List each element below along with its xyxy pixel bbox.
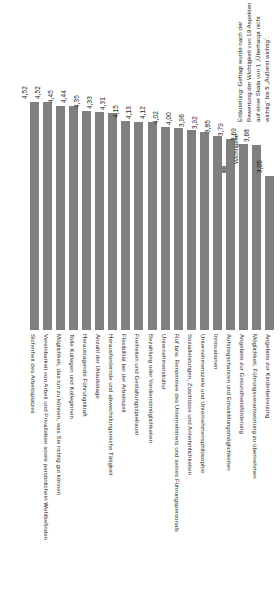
category-tick: Vereinbarkeit von Arbeit und Privatleben… — [43, 332, 52, 594]
category-tick: Herausfordernde und abwechslungsreiche T… — [108, 332, 117, 594]
bar[interactable] — [265, 176, 274, 330]
bar[interactable] — [43, 102, 52, 330]
category-label: Aufstiegschancen und Entwicklungsmöglich… — [225, 334, 233, 471]
bar-value-label: 4,52 — [33, 86, 42, 99]
bar[interactable] — [82, 111, 91, 330]
category-label: Bezahlung oder Verdienstmöglichkeiten — [147, 334, 155, 443]
bar-value-label: 4,52 — [20, 86, 29, 99]
bar[interactable] — [174, 128, 183, 330]
category-label: Ruf bzw. Renommee des Unternehmens und s… — [173, 334, 181, 532]
legend-swatch-wichtigkeit — [222, 166, 229, 173]
category-tick: Unternehmenskultur — [161, 332, 170, 594]
bar-value-label: 3,85 — [203, 120, 212, 133]
bar[interactable] — [56, 106, 65, 330]
bar-value-label: 3,05 — [255, 160, 264, 173]
category-tick: Freiheiten und Gestaltungsspielraum — [134, 332, 143, 594]
category-tick: Innovationen — [213, 332, 222, 594]
bar-slot: 3,85 — [213, 78, 222, 330]
category-axis: Sicherheit des ArbeitsplatzesVereinbarke… — [28, 332, 276, 594]
bar-value-label: 4,33 — [85, 96, 94, 109]
bar-slot: 4,44 — [69, 78, 78, 330]
category-tick: Sicherheit des Arbeitsplatzes — [30, 332, 39, 594]
bar-value-label: 4,00 — [164, 113, 173, 126]
bar[interactable] — [134, 122, 143, 330]
note-line-3: auf einer Skala von 1 „Überhaupt nicht — [254, 16, 262, 122]
category-tick: Herausragende Führungskraft — [82, 332, 91, 594]
bar-value-label: 4,45 — [46, 90, 55, 103]
chart-legend: Wichtigkeit — [222, 104, 234, 184]
category-label: Unternehmenskultur — [160, 334, 168, 390]
category-tick: Möglichkeit, das tun zu können, was Sie … — [56, 332, 65, 594]
category-tick: Ruf bzw. Renommee des Unternehmens und s… — [174, 332, 183, 594]
category-label: Herausragende Führungskraft — [81, 334, 89, 417]
category-label: Freiheiten und Gestaltungsspielraum — [133, 334, 141, 435]
bar[interactable] — [239, 144, 248, 330]
bar-value-label: 3,92 — [190, 117, 199, 130]
category-tick: Flexibilität bei der Arbeitszeit — [121, 332, 130, 594]
category-label: Angebote zur Kinderbetreuung — [264, 334, 272, 418]
category-tick: Möglichkeit, Führungsverantwortung zu üb… — [252, 332, 261, 594]
category-tick: Aufstiegschancen und Entwicklungsmöglich… — [226, 332, 235, 594]
bar[interactable] — [148, 122, 157, 330]
bar-slot: 4,52 — [30, 78, 39, 330]
bar-chart: 4,524,524,454,444,354,334,314,154,134,12… — [0, 0, 280, 598]
bar[interactable] — [161, 127, 170, 330]
bar-slot: 4,52 — [43, 78, 52, 330]
category-label: Flexibilität bei der Arbeitszeit — [120, 334, 128, 413]
category-label: Sozialleistungen, Zuschüsse und Annehmli… — [186, 334, 194, 475]
bar-value-label: 4,44 — [59, 90, 68, 103]
bar-slot: 3,92 — [200, 78, 209, 330]
category-label: Herausfordernde und abwechslungsreiche T… — [107, 334, 115, 476]
category-label: Sicherheit des Arbeitsplatzes — [29, 334, 37, 414]
bar-value-label: 4,35 — [72, 95, 81, 108]
bar-value-label: 4,12 — [138, 107, 147, 120]
note-line-2: Bewertung der Wichtigkeit von 19 Aspekte… — [245, 3, 253, 122]
category-label: Anzahl der Urlaubstage — [94, 334, 102, 399]
bar[interactable] — [213, 136, 222, 330]
bar-value-label: 4,15 — [111, 105, 120, 118]
bar-slot: 4,45 — [56, 78, 65, 330]
category-tick: Unternehmensziele und Unternehmensphilos… — [200, 332, 209, 594]
bar[interactable] — [187, 130, 196, 330]
category-tick: Bezahlung oder Verdienstmöglichkeiten — [148, 332, 157, 594]
category-label: Vereinbarkeit von Arbeit und Privatleben… — [42, 334, 50, 540]
bar[interactable] — [30, 102, 39, 330]
bar[interactable] — [200, 132, 209, 330]
category-label: Möglichkeit, Führungsverantwortung zu üb… — [251, 334, 259, 479]
category-label: Angebote zur Gesundheitsförderung — [238, 334, 246, 434]
bar[interactable] — [121, 121, 130, 330]
category-tick: Angebote zur Gesundheitsförderung — [239, 332, 248, 594]
category-label: Innovationen — [212, 334, 220, 370]
category-tick: Anzahl der Urlaubstage — [95, 332, 104, 594]
bar-value-label: 4,02 — [151, 112, 160, 125]
bar[interactable] — [108, 113, 117, 330]
legend-label-wichtigkeit: Wichtigkeit — [232, 134, 240, 164]
bar[interactable] — [69, 106, 78, 330]
bar-value-label: 4,13 — [124, 106, 133, 119]
bar-value-label: 3,68 — [242, 129, 251, 142]
explanation-note: Erläuterung: Gefragt wurde nach der Bewe… — [236, 10, 280, 130]
bar-slot: 4,33 — [95, 78, 104, 330]
category-tick: Tolle Kollegen und Kolleginnen — [69, 332, 78, 594]
bar-slot: 4,35 — [82, 78, 91, 330]
bar[interactable] — [95, 112, 104, 330]
bar-value-label: 3,96 — [177, 115, 186, 128]
note-line-4: wichtig“ bis 5 „Äußerst wichtig“. — [263, 36, 271, 122]
note-line-1: Erläuterung: Gefragt wurde nach der — [236, 22, 244, 122]
category-label: Möglichkeit, das tun zu können, was Sie … — [55, 334, 63, 495]
bar-value-label: 4,31 — [98, 97, 107, 110]
category-label: Unternehmensziele und Unternehmensphilos… — [199, 334, 207, 473]
category-tick: Sozialleistungen, Zuschüsse und Annehmli… — [187, 332, 196, 594]
category-tick: Angebote zur Kinderbetreuung — [265, 332, 274, 594]
category-label: Tolle Kollegen und Kolleginnen — [68, 334, 76, 419]
